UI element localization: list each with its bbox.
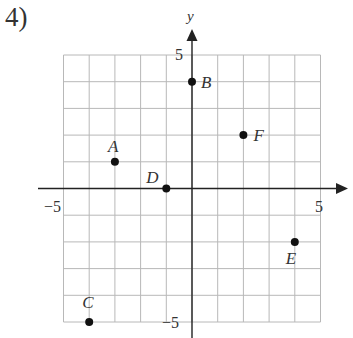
y-max-tick-label: 5 [175, 46, 183, 63]
y-min-tick-label: −5 [162, 314, 179, 331]
point-b [188, 78, 196, 86]
point-label-b: B [201, 73, 212, 92]
point-a [111, 158, 119, 166]
x-min-tick-label: −5 [44, 198, 61, 215]
point-c [85, 318, 93, 326]
y-axis-arrow-icon [187, 29, 198, 41]
x-axis-arrow-icon [336, 183, 348, 194]
point-label-d: D [145, 168, 159, 187]
y-axis-label: y [185, 8, 194, 24]
point-d [162, 185, 170, 193]
x-max-tick-label: 5 [315, 198, 323, 215]
point-f [239, 131, 247, 139]
point-label-a: A [107, 137, 119, 156]
coordinate-plane: y −5 5 5 −5 ABCDEF [0, 0, 353, 338]
point-label-c: C [82, 293, 94, 312]
point-label-e: E [285, 249, 297, 268]
point-e [291, 238, 299, 246]
point-label-f: F [252, 126, 264, 145]
